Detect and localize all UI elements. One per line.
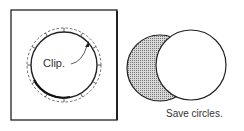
save-circles-caption: Save circles. <box>166 108 223 119</box>
left-figure: Clip. <box>11 10 117 120</box>
white-front-circle <box>156 30 226 100</box>
right-figure: Save circles. <box>127 30 226 119</box>
clip-label: Clip. <box>43 57 65 69</box>
diagram-canvas: Clip. Save circles. <box>0 0 244 131</box>
